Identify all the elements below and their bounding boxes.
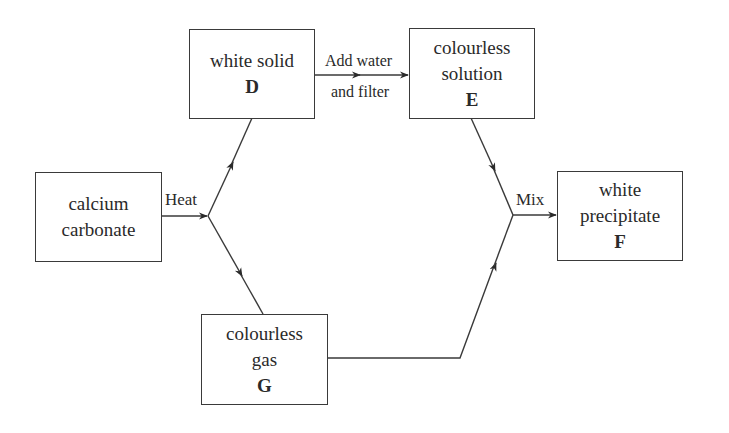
line-g-to-mix [327,266,494,358]
node-id: F [614,229,626,255]
node-id: G [257,373,272,399]
arrow-to-d-part [208,162,233,216]
node-text: colourless [433,35,510,61]
node-colourless-solution-e: colourless solution E [409,28,535,119]
edge-label-mix: Mix [516,191,544,209]
node-white-solid-d: white solid D [189,29,315,119]
arrow-to-g-part [208,216,242,276]
edge-label-add-water: Add water [325,52,392,70]
node-calcium-carbonate: calcium carbonate [35,172,162,262]
arrow-e-to-mix-part [471,118,495,171]
node-text: carbonate [62,217,136,243]
node-colourless-gas-g: colourless gas G [201,314,328,405]
node-id: E [466,87,479,113]
node-text: white solid [210,48,294,74]
node-id: D [245,74,259,100]
node-text: colourless [226,321,303,347]
node-text: solution [441,61,502,87]
node-white-precipitate-f: white precipitate F [557,171,683,261]
node-text: calcium [68,191,128,217]
node-text: gas [252,347,277,373]
edge-label-and-filter: and filter [331,83,389,101]
edge-label-heat: Heat [165,191,197,209]
node-text: precipitate [580,203,660,229]
node-text: white [599,177,641,203]
